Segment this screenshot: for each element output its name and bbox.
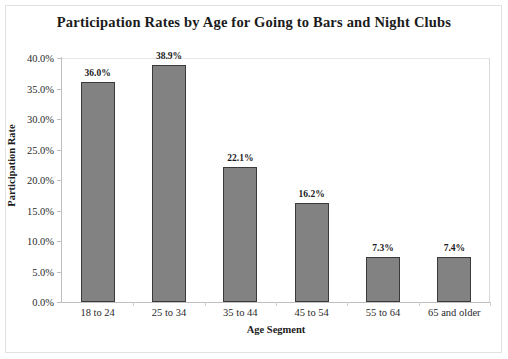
x-axis-tick-mark — [276, 302, 277, 306]
x-axis-tick-mark — [347, 302, 348, 306]
bar — [152, 65, 186, 302]
y-axis-title: Participation Rate — [6, 106, 17, 226]
bar — [437, 257, 471, 302]
y-axis-tick-label: 40.0% — [8, 53, 54, 64]
y-axis-tick-label: 10.0% — [8, 236, 54, 247]
plot-top-border — [62, 58, 490, 59]
y-axis-tick-label: 5.0% — [8, 266, 54, 277]
bar — [295, 203, 329, 302]
bar-value-label: 36.0% — [58, 68, 138, 78]
y-axis-tick-label: 0.0% — [8, 297, 54, 308]
bar-value-label: 38.9% — [129, 51, 209, 61]
bar — [223, 167, 257, 302]
bar — [81, 82, 115, 302]
bar-value-label: 7.3% — [343, 243, 423, 253]
x-axis-tick-mark — [490, 302, 491, 306]
bar — [366, 257, 400, 302]
plot-area — [62, 58, 490, 302]
chart-title: Participation Rates by Age for Going to … — [0, 14, 508, 31]
chart-container: Participation Rates by Age for Going to … — [0, 0, 508, 359]
x-axis-tick-mark — [133, 302, 134, 306]
y-axis-tick-mark — [57, 302, 62, 303]
x-axis-tick-mark — [419, 302, 420, 306]
plot-right-border — [489, 58, 490, 302]
bar-value-label: 22.1% — [200, 153, 280, 163]
x-axis-tick-mark — [205, 302, 206, 306]
y-axis-tick-label: 35.0% — [8, 83, 54, 94]
x-axis-tick-label: 65 and older — [404, 307, 504, 318]
bar-value-label: 16.2% — [272, 189, 352, 199]
x-axis-title: Age Segment — [62, 324, 490, 335]
bar-value-label: 7.4% — [414, 243, 494, 253]
